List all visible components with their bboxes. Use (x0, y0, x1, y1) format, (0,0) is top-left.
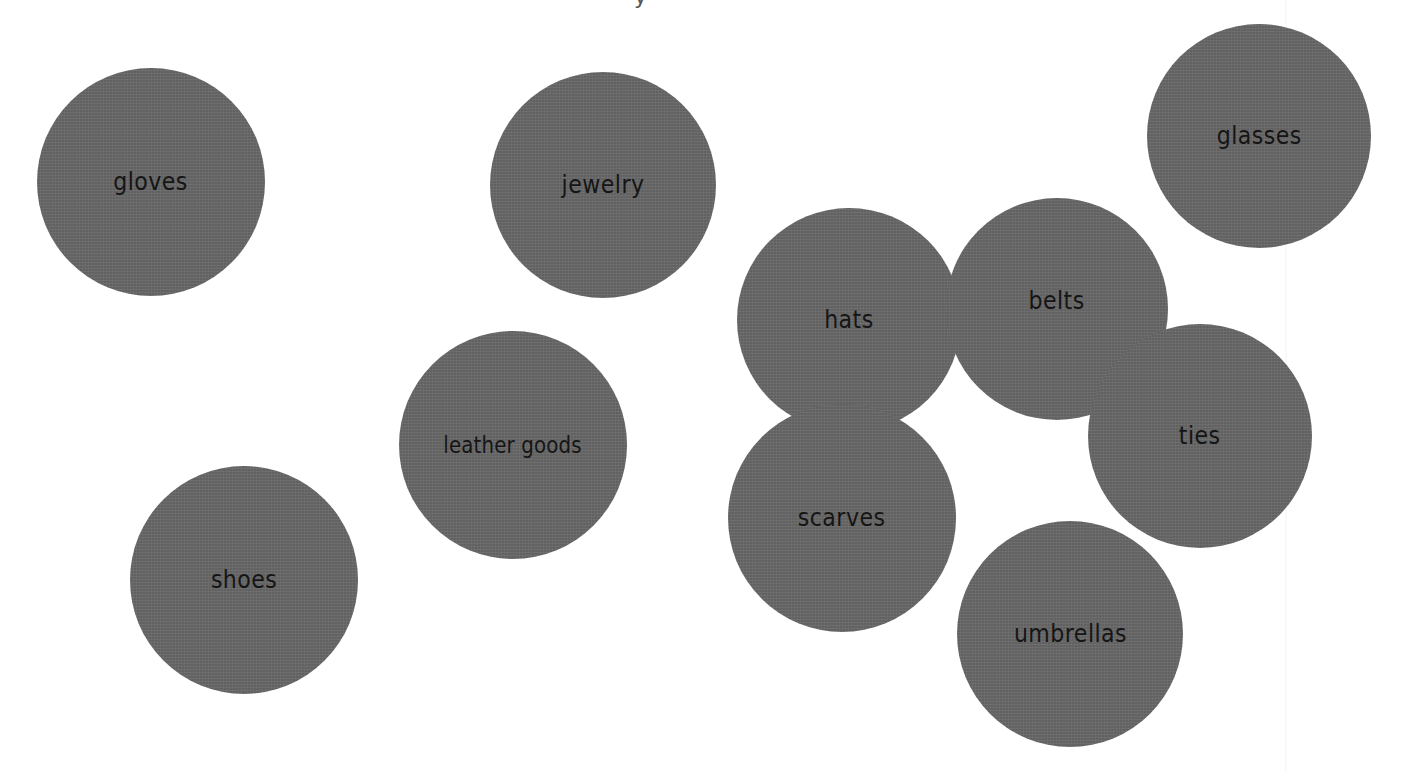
bubble-hats: hats (737, 208, 961, 432)
bubble-scarves: scarves (728, 404, 956, 632)
bubble-label: leather goods (444, 432, 583, 458)
bubble-ties: ties (1088, 324, 1312, 548)
bubble-jewelry: jewelry (490, 72, 716, 298)
accessories-bubble-diagram: y gloves jewelry glasses hats belts leat… (0, 0, 1406, 771)
bubble-glasses: glasses (1147, 24, 1371, 248)
bubble-label: glasses (1216, 122, 1301, 150)
bubble-label: scarves (798, 504, 886, 532)
bubble-shoes: shoes (130, 466, 358, 694)
bubble-label: umbrellas (1013, 620, 1126, 648)
bubble-label: shoes (211, 566, 277, 594)
bubble-label: belts (1029, 287, 1085, 315)
bubble-label: hats (824, 306, 874, 334)
bubble-umbrellas: umbrellas (957, 521, 1183, 747)
clipped-title-fragment: y (634, 0, 647, 8)
bubble-label: ties (1179, 422, 1221, 450)
bubble-gloves: gloves (37, 68, 265, 296)
bubble-label: gloves (114, 168, 189, 196)
bubble-leather-goods: leather goods (399, 331, 627, 559)
bubble-label: jewelry (562, 171, 645, 199)
